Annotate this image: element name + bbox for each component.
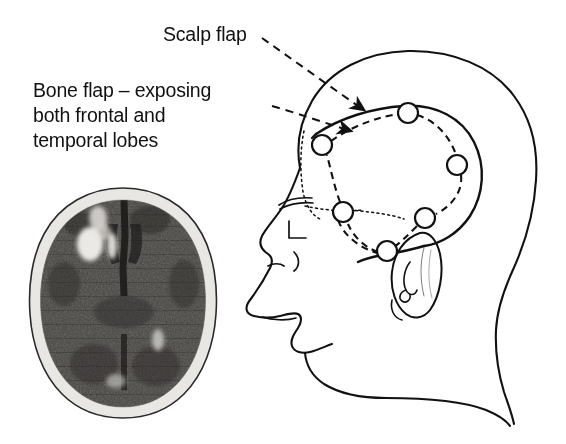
label-bone-flap: Bone flap – exposing both frontal and te… — [33, 78, 211, 153]
ear-helix — [392, 233, 442, 318]
label-scalp-flap-text: Scalp flap — [163, 22, 247, 47]
label-scalp-flap: Scalp flap — [163, 22, 247, 47]
craniotomy-figure: Scalp flap Bone flap – exposing both fro… — [0, 0, 566, 444]
nostril — [268, 264, 284, 266]
label-bone-flap-line1: Bone flap – exposing — [33, 78, 211, 103]
burr-holes-group — [312, 103, 467, 261]
burr-hole-temporal-posterior — [415, 208, 435, 228]
nose-wing — [294, 252, 299, 271]
eye-profile — [289, 221, 306, 238]
jaw-neck-outline — [305, 353, 510, 426]
bone-flap-seg-2 — [417, 115, 455, 152]
ear-group — [391, 233, 441, 320]
label-bone-flap-line2: both frontal and — [33, 103, 211, 128]
label-bone-flap-line3: temporal lobes — [33, 128, 211, 153]
facial-features-group — [262, 198, 313, 320]
ear-tragus — [400, 290, 410, 302]
head-diagram — [0, 0, 566, 444]
ear-inner-shade-1 — [421, 248, 424, 296]
burr-hole-parietal-posterior — [447, 155, 467, 175]
scalp-flap-outline — [312, 106, 482, 262]
bone-flap-seg-7 — [338, 220, 377, 253]
bone-flap-seg-6 — [327, 155, 340, 202]
ear-inner-shade-2 — [429, 250, 432, 298]
bone-flap-leader-line — [272, 106, 351, 131]
burr-hole-temporal-anterior — [377, 241, 397, 261]
bone-flap-outline — [327, 114, 461, 253]
burr-hole-frontal-inferior — [333, 202, 353, 222]
temporal-line-dotted-2 — [350, 210, 404, 219]
bone-flap-seg-3 — [436, 175, 461, 214]
burr-hole-vertex — [398, 103, 418, 123]
face-profile-outline — [247, 168, 332, 353]
burr-hole-frontal-anterior — [312, 135, 332, 155]
